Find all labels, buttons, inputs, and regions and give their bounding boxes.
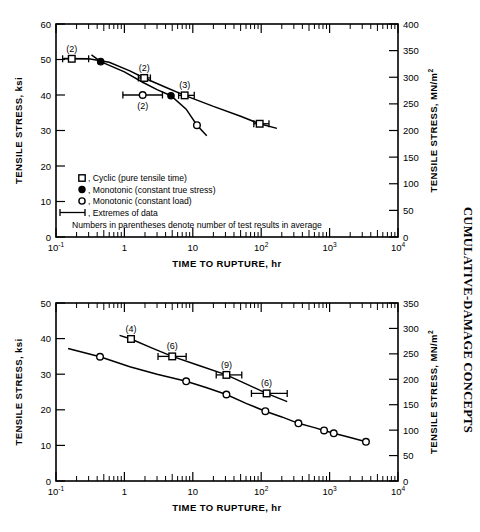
y-tick-label-right: 50 <box>403 205 414 216</box>
y-axis-title-left: TENSILE STRESS, ksi <box>13 339 24 446</box>
x-tick-label: 104 <box>391 485 406 497</box>
y-tick-label-right: 150 <box>403 399 419 410</box>
legend-item-label: , Extremes of data <box>88 208 158 218</box>
legend-item-label: , Monotonic (constant true stress) <box>88 185 216 195</box>
point-count-label: (6) <box>167 341 178 351</box>
side-caption: CUMULATIVE-DAMAGE CONCEPTS <box>454 150 480 490</box>
y-tick-label-left: 0 <box>46 476 51 487</box>
x-tick-label: 1 <box>122 486 127 497</box>
y-tick-label-right: 200 <box>403 374 419 385</box>
marker-open-square <box>128 336 135 343</box>
point-count-label: (2) <box>137 101 148 111</box>
y-tick-label-left: 0 <box>46 232 51 243</box>
y-tick-label-right: 50 <box>403 450 414 461</box>
y-tick-label-left: 10 <box>40 440 51 451</box>
y-tick-label-right: 300 <box>403 72 419 83</box>
marker-open-circle <box>321 427 328 434</box>
marker-open-square <box>181 92 188 99</box>
y-tick-label-left: 60 <box>40 19 51 30</box>
marker-open-circle <box>262 408 269 415</box>
marker-open-square <box>68 55 75 62</box>
top-chart-svg: 10-1110102103104TIME TO RUPTURE, hr01020… <box>0 0 480 270</box>
x-tick-label: 10-1 <box>48 485 65 497</box>
legend-marker-filled-circle <box>79 186 85 192</box>
point-count-label: (4) <box>126 324 137 334</box>
x-axis-title: TIME TO RUPTURE, hr <box>172 502 281 513</box>
marker-open-circle <box>330 430 337 437</box>
side-caption-text: CUMULATIVE-DAMAGE CONCEPTS <box>460 207 475 433</box>
y-tick-label-left: 30 <box>40 125 51 136</box>
y-tick-label-right: 150 <box>403 152 419 163</box>
point-count-label: (2) <box>139 63 150 73</box>
y-tick-label-right: 100 <box>403 178 419 189</box>
x-tick-label: 103 <box>322 241 337 253</box>
x-tick-label: 102 <box>254 485 269 497</box>
y-tick-label-right: 350 <box>403 298 419 309</box>
y-tick-label-right: 350 <box>403 45 419 56</box>
x-tick-label: 1 <box>122 242 127 253</box>
y-tick-label-left: 20 <box>40 161 51 172</box>
legend-item-label: , Monotonic (constant load) <box>88 196 192 206</box>
marker-open-circle <box>295 420 302 427</box>
legend-item-label: , Cyclic (pure tensile time) <box>88 173 187 183</box>
y-tick-label-left: 20 <box>40 404 51 415</box>
y-tick-label-right: 300 <box>403 323 419 334</box>
marker-open-circle <box>194 122 201 129</box>
legend-marker-open-circle <box>79 198 85 204</box>
y-tick-label-right: 200 <box>403 125 419 136</box>
point-count-label: (9) <box>221 360 232 370</box>
marker-open-square <box>223 372 230 379</box>
y-tick-label-right: 0 <box>403 232 408 243</box>
marker-open-square <box>263 390 270 397</box>
point-count-label: (3) <box>179 80 190 90</box>
y-tick-label-right: 250 <box>403 348 419 359</box>
y-tick-label-left: 40 <box>40 90 51 101</box>
marker-open-circle <box>183 378 190 385</box>
bottom-chart-svg: 10-1110102103104TIME TO RUPTURE, hr01020… <box>0 270 480 532</box>
y-tick-label-left: 40 <box>40 333 51 344</box>
x-tick-label: 10 <box>188 486 199 497</box>
y-tick-label-left: 50 <box>40 54 51 65</box>
y-tick-label-left: 50 <box>40 298 51 309</box>
x-tick-label: 102 <box>254 241 269 253</box>
y-axis-title-right: TENSILE STRESS, MN/m2 <box>427 69 439 193</box>
point-count-label: (6) <box>261 378 272 388</box>
marker-open-square <box>141 75 148 82</box>
x-tick-label: 103 <box>322 485 337 497</box>
x-axis-title: TIME TO RUPTURE, hr <box>172 258 281 269</box>
marker-filled-circle <box>168 93 174 99</box>
y-axis-title-left: TENSILE STRESS, ksi <box>13 77 24 184</box>
y-tick-label-left: 30 <box>40 369 51 380</box>
y-tick-label-right: 400 <box>403 19 419 30</box>
marker-open-square <box>256 120 263 127</box>
y-tick-label-right: 250 <box>403 98 419 109</box>
x-tick-label: 10 <box>188 242 199 253</box>
y-tick-label-right: 100 <box>403 425 419 436</box>
marker-open-circle <box>139 92 146 99</box>
marker-open-circle <box>363 439 370 446</box>
y-axis-title-right: TENSILE STRESS, MN/m2 <box>427 330 439 454</box>
point-count-label: (2) <box>66 44 77 54</box>
y-tick-label-right: 0 <box>403 476 408 487</box>
data-curve <box>120 335 288 401</box>
marker-open-circle <box>223 391 230 398</box>
x-tick-label: 104 <box>391 241 406 253</box>
bottom-chart: 10-1110102103104TIME TO RUPTURE, hr01020… <box>0 270 480 532</box>
marker-filled-circle <box>97 58 103 64</box>
legend-note: Numbers in parentheses denote number of … <box>72 220 322 230</box>
legend-marker-open-square <box>79 175 85 181</box>
x-tick-label: 10-1 <box>48 241 65 253</box>
y-tick-label-left: 10 <box>40 196 51 207</box>
marker-open-square <box>169 353 176 360</box>
top-chart: 10-1110102103104TIME TO RUPTURE, hr01020… <box>0 0 480 270</box>
marker-open-circle <box>97 353 104 360</box>
